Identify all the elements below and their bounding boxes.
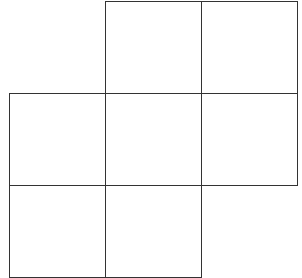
grid-cell-r2-c0 (9, 185, 106, 278)
grid-cell-r2-c1 (105, 185, 202, 278)
grid-cell-r1-c1 (105, 93, 202, 186)
grid-cell-r1-c2 (201, 93, 298, 186)
grid-cell-r1-c0 (9, 93, 106, 186)
grid-cell-r0-c1 (105, 1, 202, 94)
grid-cell-r0-c2 (201, 1, 298, 94)
